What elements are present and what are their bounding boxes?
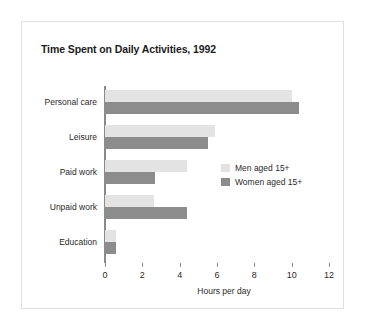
bar-group: Unpaid work bbox=[22, 193, 343, 228]
x-tick-label: 0 bbox=[102, 270, 107, 280]
x-tick-mark bbox=[329, 263, 330, 267]
x-tick-label: 8 bbox=[252, 270, 257, 280]
x-tick-mark bbox=[254, 263, 255, 267]
bar-women bbox=[105, 207, 187, 219]
x-tick-mark bbox=[180, 263, 181, 267]
legend-swatch-men bbox=[221, 164, 230, 172]
x-tick-mark bbox=[142, 263, 143, 267]
x-tick-mark bbox=[292, 263, 293, 267]
x-axis-title: Hours per day bbox=[104, 286, 344, 296]
x-tick-label: 12 bbox=[324, 270, 334, 280]
bar-women bbox=[105, 172, 155, 184]
legend-item: Men aged 15+ bbox=[221, 162, 341, 174]
bar-men bbox=[105, 230, 116, 242]
bar-men bbox=[105, 195, 154, 207]
bar-group: Education bbox=[22, 228, 343, 263]
x-tick-label: 10 bbox=[287, 270, 297, 280]
x-tick-label: 4 bbox=[177, 270, 182, 280]
chart-figure: Time Spent on Daily Activities, 1992 Per… bbox=[21, 21, 344, 309]
bar-group: Personal care bbox=[22, 88, 343, 123]
bar-group: Leisure bbox=[22, 123, 343, 158]
x-tick-mark bbox=[217, 263, 218, 267]
category-label: Paid work bbox=[60, 167, 97, 177]
category-label: Education bbox=[59, 237, 97, 247]
chart-legend: Men aged 15+Women aged 15+ bbox=[221, 162, 341, 190]
legend-label: Women aged 15+ bbox=[235, 177, 302, 187]
x-tick-mark bbox=[105, 263, 106, 267]
x-tick-label: 6 bbox=[214, 270, 219, 280]
legend-swatch-women bbox=[221, 178, 230, 186]
bar-women bbox=[105, 242, 116, 254]
category-label: Unpaid work bbox=[50, 202, 97, 212]
category-label: Leisure bbox=[69, 132, 97, 142]
bar-men bbox=[105, 125, 215, 137]
x-tick-label: 2 bbox=[140, 270, 145, 280]
category-label: Personal care bbox=[45, 97, 97, 107]
bar-women bbox=[105, 137, 208, 149]
plot-area: Personal careLeisurePaid workUnpaid work… bbox=[22, 22, 343, 308]
legend-item: Women aged 15+ bbox=[221, 176, 341, 188]
legend-label: Men aged 15+ bbox=[235, 163, 290, 173]
bar-men bbox=[105, 160, 187, 172]
bar-men bbox=[105, 90, 292, 102]
bar-women bbox=[105, 102, 299, 114]
